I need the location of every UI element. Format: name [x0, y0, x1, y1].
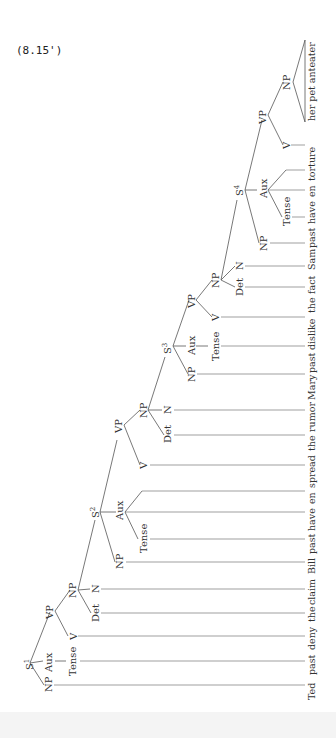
node-s2-v: V: [138, 461, 149, 470]
node-s2-tense: Tense: [138, 524, 149, 553]
syntax-tree: (8.15'): [0, 0, 336, 738]
node-s1-tense: Tense: [67, 647, 78, 676]
word: have: [306, 201, 317, 224]
word: rumor: [306, 402, 317, 432]
word-her-pet-anteater: her pet anteater: [306, 42, 317, 121]
node-s4: S4: [233, 184, 245, 196]
node-s1-n: N: [90, 584, 101, 593]
word: en: [306, 185, 317, 197]
word: Ted: [306, 683, 317, 700]
word: torture: [306, 146, 317, 181]
word: Sam: [306, 249, 317, 270]
node-s2-n: N: [162, 405, 173, 414]
node-s3-tense: Tense: [210, 332, 221, 361]
node-s4-object-np: NP: [281, 74, 292, 90]
node-s3-v: V: [210, 313, 221, 322]
node-s3-det: Det: [234, 278, 245, 296]
leaf-lines: [54, 145, 305, 685]
node-s3-aux: Aux: [186, 335, 197, 356]
node-s4-np: NP: [258, 235, 269, 251]
node-s1-aux: Aux: [43, 652, 54, 673]
word: have: [306, 508, 317, 531]
node-s4-v: V: [281, 141, 292, 150]
word: en: [306, 492, 317, 504]
sentence: Ted past deny the claim Bill past have e…: [306, 42, 317, 700]
node-s4-aux: Aux: [258, 178, 269, 199]
word: the: [306, 297, 317, 313]
node-s1-vp: VP: [44, 605, 55, 620]
node-s2-aux: Aux: [114, 500, 125, 521]
node-s1-det: Det: [90, 604, 101, 622]
node-s1: S1: [23, 659, 35, 670]
node-s4-tense: Tense: [281, 197, 292, 226]
word: deny: [306, 626, 317, 650]
node-s2-np: NP: [114, 553, 125, 569]
word: dislike: [306, 318, 317, 350]
node-s3-np: NP: [186, 366, 197, 382]
diagram-page: (8.15'): [0, 0, 336, 738]
node-s2: S2: [89, 507, 101, 518]
word: past: [306, 654, 317, 675]
node-s4-vp: VP: [257, 110, 268, 125]
node-s3-n: N: [234, 261, 245, 270]
node-s2-object-np: NP: [138, 402, 149, 418]
word: fact: [306, 275, 317, 294]
node-s1-object-np: NP: [67, 582, 78, 598]
word: the: [306, 606, 317, 622]
word: claim: [306, 579, 317, 605]
word: Mary: [306, 374, 317, 400]
node-s3-object-np: NP: [210, 272, 221, 288]
word: past: [306, 533, 317, 554]
word: past: [306, 352, 317, 373]
figure-caption: (8.15'): [16, 44, 62, 57]
word: the: [306, 435, 317, 451]
word: spread: [306, 455, 317, 488]
node-s1-v: V: [68, 632, 79, 641]
node-s2-vp: VP: [113, 419, 124, 434]
word: Bill: [306, 558, 317, 574]
node-s3-vp: VP: [186, 294, 197, 309]
node-s3: S3: [161, 343, 173, 354]
page-edge: [0, 712, 336, 738]
word: past: [306, 227, 317, 248]
node-s2-det: Det: [162, 425, 173, 443]
node-s1-np: NP: [43, 676, 54, 692]
